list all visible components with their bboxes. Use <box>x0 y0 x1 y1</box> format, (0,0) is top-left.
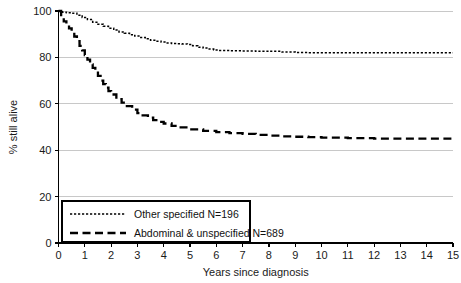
x-tick-label-12: 12 <box>368 249 380 261</box>
kaplan-meier-plot: 020406080100 0123456789101112131415 Year… <box>0 0 461 283</box>
x-tick-label-0: 0 <box>55 249 61 261</box>
x-tick-label-10: 10 <box>315 249 327 261</box>
y-axis-title: % still alive <box>7 100 19 154</box>
y-tick-label-60: 60 <box>39 98 51 110</box>
legend-label-other-specified: Other specified N=196 <box>134 208 239 220</box>
x-tick-label-2: 2 <box>108 249 114 261</box>
x-tick-label-11: 11 <box>342 249 353 261</box>
x-tick-label-8: 8 <box>266 249 272 261</box>
x-tick-label-5: 5 <box>187 249 193 261</box>
y-tick-label-80: 80 <box>39 51 51 63</box>
x-tick-label-3: 3 <box>134 249 140 261</box>
x-tick-label-9: 9 <box>292 249 298 261</box>
x-tick-label-4: 4 <box>161 249 167 261</box>
x-tick-label-15: 15 <box>447 249 459 261</box>
y-tick-label-40: 40 <box>39 144 51 156</box>
y-tick-label-20: 20 <box>39 191 51 203</box>
x-tick-label-1: 1 <box>82 249 88 261</box>
y-tick-label-0: 0 <box>45 237 51 249</box>
legend-label-abdominal-unspecified: Abdominal & unspecified N=689 <box>134 227 284 239</box>
x-tick-label-7: 7 <box>240 249 246 261</box>
x-tick-label-14: 14 <box>421 249 433 261</box>
x-axis-title: Years since diagnosis <box>203 266 309 278</box>
x-tick-label-6: 6 <box>213 249 219 261</box>
survival-chart: 020406080100 0123456789101112131415 Year… <box>0 0 461 283</box>
x-tick-label-13: 13 <box>394 249 406 261</box>
y-tick-label-100: 100 <box>33 5 51 17</box>
